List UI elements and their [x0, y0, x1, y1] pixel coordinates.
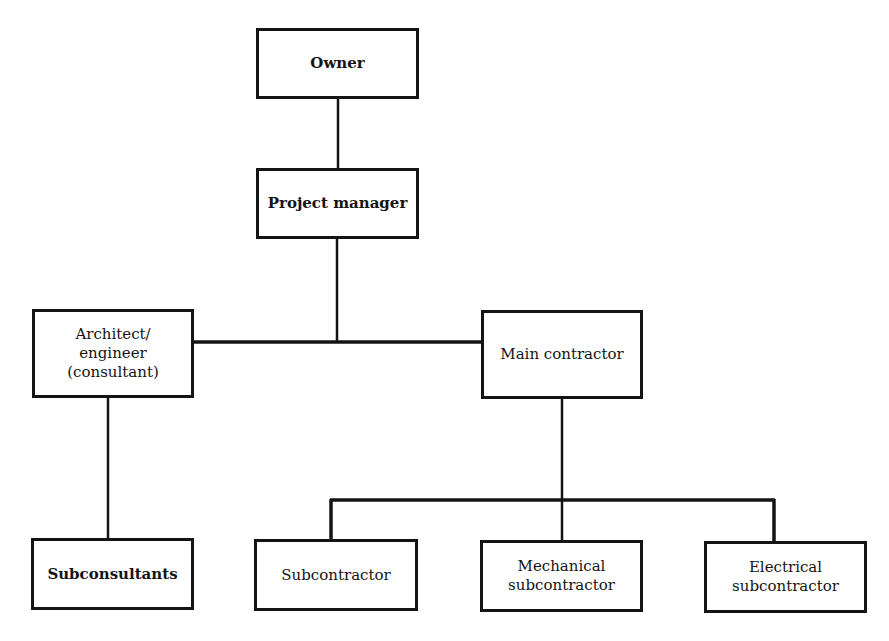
- node-main-contractor-label: Main contractor: [500, 345, 623, 364]
- node-project-manager: Project manager: [256, 168, 419, 239]
- node-mechanical-subcontractor: Mechanical subcontractor: [480, 540, 643, 612]
- node-architect-engineer-label: Architect/ engineer (consultant): [67, 325, 159, 381]
- node-architect-engineer: Architect/ engineer (consultant): [32, 309, 194, 398]
- node-subconsultants: Subconsultants: [31, 538, 194, 610]
- node-project-manager-label: Project manager: [268, 194, 408, 213]
- node-subcontractor-label: Subcontractor: [281, 566, 390, 585]
- node-subcontractor: Subcontractor: [254, 539, 418, 611]
- org-chart: Owner Project manager Architect/ enginee…: [0, 0, 889, 641]
- node-main-contractor: Main contractor: [481, 310, 643, 399]
- node-electrical-subcontractor: Electrical subcontractor: [704, 541, 867, 613]
- node-mechanical-subcontractor-label: Mechanical subcontractor: [508, 557, 615, 595]
- node-subconsultants-label: Subconsultants: [47, 565, 177, 584]
- node-owner-label: Owner: [310, 54, 364, 73]
- node-electrical-subcontractor-label: Electrical subcontractor: [732, 558, 839, 596]
- node-owner: Owner: [256, 28, 419, 99]
